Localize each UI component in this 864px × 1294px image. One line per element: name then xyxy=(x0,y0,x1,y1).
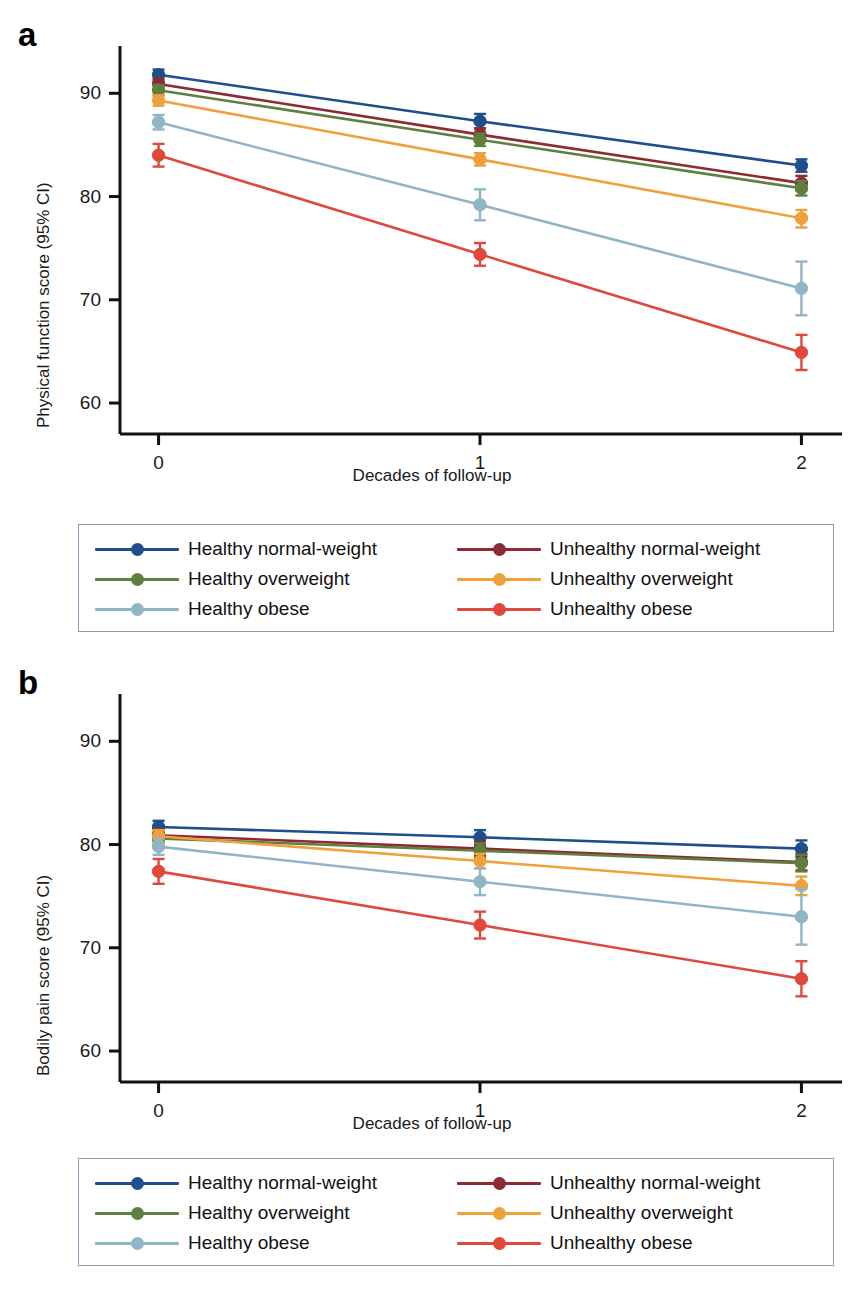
data-point-marker xyxy=(795,911,807,923)
legend-label: Healthy overweight xyxy=(188,568,350,590)
legend-swatch-icon xyxy=(95,571,179,587)
legend-swatch-icon xyxy=(457,1175,541,1191)
legend-label: Unhealthy obese xyxy=(550,1232,693,1254)
legend-swatch-icon xyxy=(95,1235,179,1251)
legend-swatch-icon xyxy=(457,1235,541,1251)
legend-item-3[interactable]: Unhealthy overweight xyxy=(457,568,819,590)
series-5 xyxy=(152,144,807,370)
data-point-marker xyxy=(152,840,164,852)
y-axis-title: Bodily pain score (95% CI) xyxy=(34,875,54,1076)
legend-swatch-icon xyxy=(457,541,541,557)
legend-label: Healthy obese xyxy=(188,598,309,620)
legend-label: Unhealthy normal-weight xyxy=(550,1172,760,1194)
legend-item-5[interactable]: Unhealthy obese xyxy=(457,1232,819,1254)
y-tick-label: 80 xyxy=(39,834,101,856)
data-point-marker xyxy=(795,212,807,224)
legend-label: Healthy normal-weight xyxy=(188,1172,377,1194)
data-point-marker xyxy=(474,876,486,888)
data-point-marker xyxy=(474,134,486,146)
panel-a-svg xyxy=(0,0,864,500)
legend-label: Healthy obese xyxy=(188,1232,309,1254)
legend-label: Healthy overweight xyxy=(188,1202,350,1224)
legend-a: Healthy normal-weightUnhealthy normal-we… xyxy=(78,524,834,632)
legend-swatch-icon xyxy=(95,601,179,617)
figure-root: a 60708090012Physical function score (95… xyxy=(0,0,864,1294)
legend-item-2[interactable]: Healthy overweight xyxy=(95,1202,457,1224)
legend-label: Unhealthy overweight xyxy=(550,568,733,590)
legend-b: Healthy normal-weightUnhealthy normal-we… xyxy=(78,1158,834,1266)
data-point-marker xyxy=(795,346,807,358)
panel-a-xaxis-title: Decades of follow-up xyxy=(0,466,864,486)
panel-b-xaxis-title: Decades of follow-up xyxy=(0,1114,864,1134)
legend-swatch-icon xyxy=(95,1205,179,1221)
legend-swatch-icon xyxy=(95,541,179,557)
panel-a-plot: 60708090012Physical function score (95% … xyxy=(0,0,864,500)
legend-swatch-icon xyxy=(457,601,541,617)
data-point-marker xyxy=(474,919,486,931)
legend-item-0[interactable]: Healthy normal-weight xyxy=(95,538,457,560)
data-point-marker xyxy=(152,865,164,877)
y-tick-label: 90 xyxy=(39,730,101,752)
legend-swatch-icon xyxy=(457,571,541,587)
panel-b: b 60708090012Bodily pain score (95% CI) … xyxy=(0,648,864,1294)
data-point-marker xyxy=(795,159,807,171)
legend-item-4[interactable]: Healthy obese xyxy=(95,598,457,620)
legend-swatch-icon xyxy=(95,1175,179,1191)
legend-label: Healthy normal-weight xyxy=(188,538,377,560)
legend-item-4[interactable]: Healthy obese xyxy=(95,1232,457,1254)
data-point-marker xyxy=(474,855,486,867)
legend-item-0[interactable]: Healthy normal-weight xyxy=(95,1172,457,1194)
legend-label: Unhealthy normal-weight xyxy=(550,538,760,560)
data-point-marker xyxy=(795,857,807,869)
panel-a: a 60708090012Physical function score (95… xyxy=(0,0,864,640)
data-point-marker xyxy=(474,153,486,165)
legend-item-2[interactable]: Healthy overweight xyxy=(95,568,457,590)
series-2 xyxy=(152,84,807,196)
y-tick-label: 90 xyxy=(39,82,101,104)
panel-b-plot: 60708090012Bodily pain score (95% CI) xyxy=(0,648,864,1148)
data-point-marker xyxy=(795,973,807,985)
data-point-marker xyxy=(474,115,486,127)
legend-label: Unhealthy overweight xyxy=(550,1202,733,1224)
legend-label: Unhealthy obese xyxy=(550,598,693,620)
legend-item-1[interactable]: Unhealthy normal-weight xyxy=(457,1172,819,1194)
data-point-marker xyxy=(474,248,486,260)
data-point-marker xyxy=(152,116,164,128)
legend-item-3[interactable]: Unhealthy overweight xyxy=(457,1202,819,1224)
data-point-marker xyxy=(795,182,807,194)
legend-b-grid: Healthy normal-weightUnhealthy normal-we… xyxy=(79,1159,833,1265)
data-point-marker xyxy=(152,149,164,161)
data-point-marker xyxy=(474,199,486,211)
legend-a-grid: Healthy normal-weightUnhealthy normal-we… xyxy=(79,525,833,631)
legend-item-5[interactable]: Unhealthy obese xyxy=(457,598,819,620)
panel-b-svg xyxy=(0,648,864,1148)
data-point-marker xyxy=(152,94,164,106)
y-axis-title: Physical function score (95% CI) xyxy=(34,182,54,428)
legend-swatch-icon xyxy=(457,1205,541,1221)
data-point-marker xyxy=(795,282,807,294)
legend-item-1[interactable]: Unhealthy normal-weight xyxy=(457,538,819,560)
